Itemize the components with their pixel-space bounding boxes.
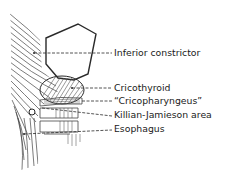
leader-killian-jamieson bbox=[42, 108, 112, 116]
nodule-marker bbox=[29, 109, 35, 115]
label-esophagus: Esophagus bbox=[114, 124, 165, 134]
anatomy-illustration bbox=[0, 0, 226, 177]
label-cricopharyngeus: “Cricopharyngeus” bbox=[114, 96, 202, 106]
label-killian-jamieson-area: Killian-Jamieson area bbox=[114, 110, 212, 120]
thyroid-cartilage-outline bbox=[46, 24, 96, 80]
esophagus-segments bbox=[40, 108, 80, 146]
label-inferior-constrictor: Inferior constrictor bbox=[114, 48, 200, 58]
label-cricothyroid: Cricothyroid bbox=[114, 83, 171, 93]
anatomy-diagram: Inferior constrictor Cricothyroid “Crico… bbox=[0, 0, 226, 177]
